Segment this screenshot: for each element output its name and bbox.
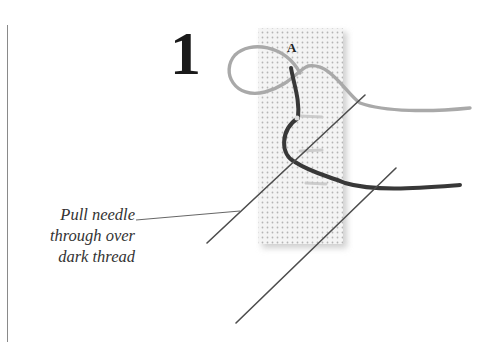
thread-crossing <box>295 116 300 121</box>
caption: Pull needle through over dark thread <box>0 204 135 267</box>
caption-line-3: dark thread <box>0 246 135 267</box>
caption-line-1: Pull needle <box>0 204 135 225</box>
point-a-label: A <box>287 40 296 56</box>
caption-leader-line <box>136 211 240 220</box>
fabric-strip <box>258 28 347 248</box>
caption-line-2: through over <box>0 225 135 246</box>
stitch-illustration <box>0 0 495 342</box>
